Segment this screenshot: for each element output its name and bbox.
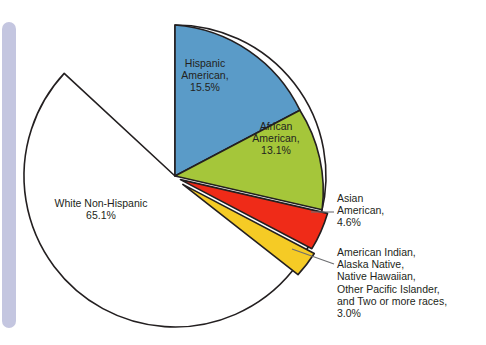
slice-label-hispanic-american: Hispanic American, 15.5%: [163, 57, 247, 94]
slice-label-white-non-hispanic: White Non-Hispanic 65.1%: [32, 197, 170, 221]
chart-canvas: Hispanic American, 15.5% African America…: [0, 0, 486, 345]
slice-label-american-indian-alaska-native: American Indian, Alaska Native, Native H…: [337, 246, 483, 319]
slice-label-asian-american: Asian American, 4.6%: [337, 192, 447, 229]
slice-label-african-american: African American, 13.1%: [233, 120, 319, 157]
